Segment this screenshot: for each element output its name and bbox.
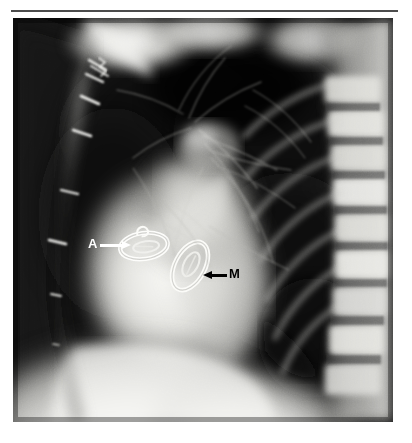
film-grain <box>13 18 393 422</box>
figure-root: A M <box>0 0 412 443</box>
figure-separator-rule <box>11 10 398 12</box>
radiograph-canvas <box>13 18 393 422</box>
lateral-chest-radiograph-image: A M <box>13 18 393 422</box>
